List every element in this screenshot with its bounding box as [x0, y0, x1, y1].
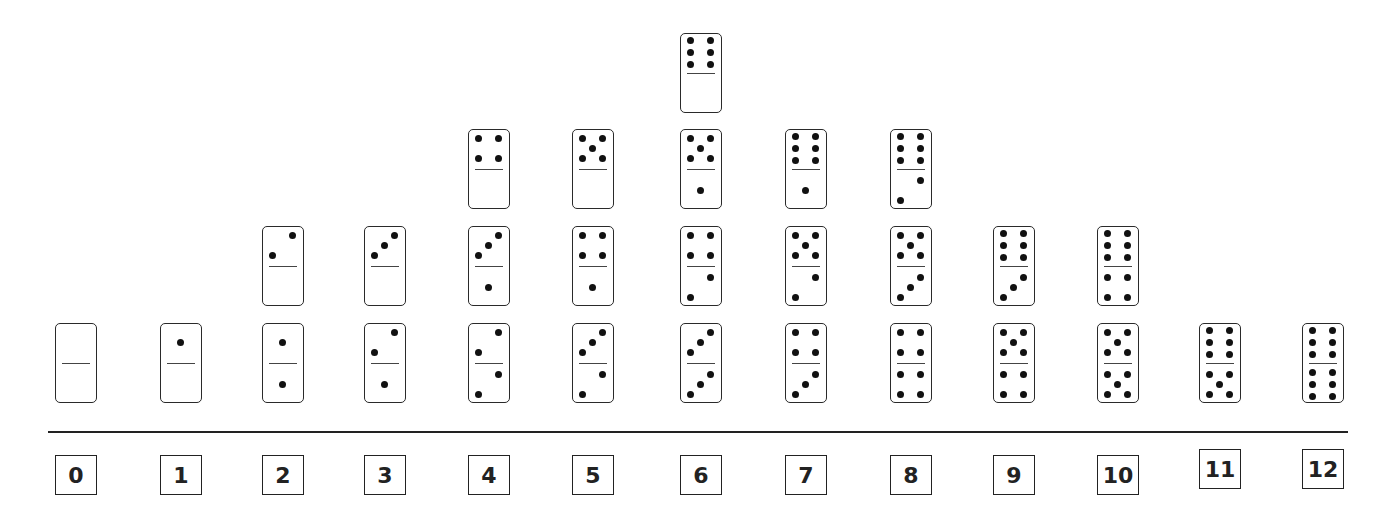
pip-icon [802, 242, 809, 249]
pip-icon [1104, 254, 1111, 261]
domino-5-3 [890, 226, 932, 306]
domino-half-bottom [365, 267, 405, 307]
pip-icon [1114, 339, 1121, 346]
pip-icon [897, 329, 904, 336]
domino-half-top [681, 34, 721, 74]
domino-half-bottom [786, 170, 826, 210]
domino-divider [371, 266, 399, 267]
pip-icon [599, 371, 606, 378]
pip-icon [687, 61, 694, 68]
pip-icon [802, 187, 809, 194]
pip-icon [897, 371, 904, 378]
pip-icon [599, 135, 606, 142]
pip-icon [1124, 242, 1131, 249]
pip-icon [812, 232, 819, 239]
domino-half-bottom [1098, 267, 1138, 307]
pip-icon [792, 294, 799, 301]
pip-icon [812, 329, 819, 336]
pip-icon [475, 252, 482, 259]
domino-half-top [1098, 324, 1138, 364]
pip-icon [1104, 371, 1111, 378]
pip-icon [897, 157, 904, 164]
domino-half-top [891, 130, 931, 170]
pip-icon [1000, 294, 1007, 301]
pip-icon [917, 145, 924, 152]
pip-icon [391, 329, 398, 336]
domino-3-2 [572, 323, 614, 403]
pip-icon [1020, 391, 1027, 398]
domino-2-2 [468, 323, 510, 403]
pip-icon [1329, 369, 1336, 376]
pip-icon [371, 252, 378, 259]
pip-icon [1020, 230, 1027, 237]
domino-6-5 [1199, 323, 1241, 403]
domino-divider [62, 363, 90, 364]
domino-5-4 [993, 323, 1035, 403]
pip-icon [1000, 254, 1007, 261]
pip-icon [1020, 274, 1027, 281]
domino-half-bottom [681, 364, 721, 404]
pip-icon [1124, 349, 1131, 356]
pip-icon [589, 145, 596, 152]
domino-half-bottom [994, 267, 1034, 307]
sum-label-0: 0 [55, 455, 97, 495]
pip-icon [897, 133, 904, 140]
domino-divider [475, 169, 503, 170]
domino-4-3 [785, 323, 827, 403]
domino-divider [792, 169, 820, 170]
domino-half-top [1200, 324, 1240, 364]
domino-divider [1000, 266, 1028, 267]
pip-icon [917, 133, 924, 140]
pip-icon [707, 329, 714, 336]
pip-icon [1124, 371, 1131, 378]
domino-half-bottom [365, 364, 405, 404]
pip-icon [1000, 371, 1007, 378]
domino-half-top [786, 227, 826, 267]
pip-icon [1329, 327, 1336, 334]
pip-icon [792, 232, 799, 239]
pip-icon [1124, 329, 1131, 336]
domino-1-0 [160, 323, 202, 403]
pip-icon [1206, 327, 1213, 334]
domino-half-top [1098, 227, 1138, 267]
domino-half-top [573, 227, 613, 267]
pip-icon [917, 329, 924, 336]
domino-4-2 [680, 226, 722, 306]
domino-half-bottom [891, 267, 931, 307]
domino-half-top [469, 227, 509, 267]
domino-6-1 [785, 129, 827, 209]
pip-icon [1020, 371, 1027, 378]
pip-icon [579, 252, 586, 259]
pip-icon [897, 232, 904, 239]
pip-icon [475, 155, 482, 162]
pip-icon [579, 155, 586, 162]
domino-divider [1206, 363, 1234, 364]
domino-half-top [365, 324, 405, 364]
pip-icon [495, 329, 502, 336]
domino-half-bottom [681, 170, 721, 210]
domino-half-top [786, 324, 826, 364]
pip-icon [1206, 339, 1213, 346]
pip-icon [1226, 339, 1233, 346]
pip-icon [1010, 339, 1017, 346]
sum-label-7: 7 [785, 455, 827, 495]
domino-half-top [994, 324, 1034, 364]
pip-icon [1000, 242, 1007, 249]
pip-icon [687, 294, 694, 301]
pip-icon [917, 252, 924, 259]
pip-icon [599, 232, 606, 239]
pip-icon [707, 37, 714, 44]
pip-icon [792, 252, 799, 259]
pip-icon [495, 371, 502, 378]
domino-divider [897, 169, 925, 170]
pip-icon [907, 242, 914, 249]
pip-icon [495, 232, 502, 239]
pip-icon [1206, 391, 1213, 398]
domino-half-top [681, 324, 721, 364]
pip-icon [1309, 369, 1316, 376]
domino-6-3 [993, 226, 1035, 306]
pip-icon [475, 391, 482, 398]
pip-icon [1000, 349, 1007, 356]
pip-icon [812, 371, 819, 378]
domino-sum-diagram: 0123456789101112 [0, 0, 1393, 529]
